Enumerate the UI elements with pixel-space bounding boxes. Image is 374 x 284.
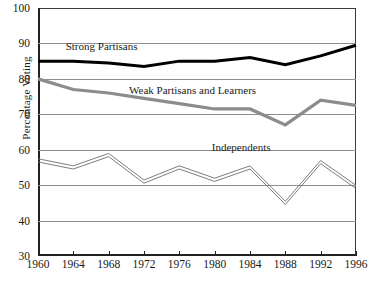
x-tick-label-1972: 1972 [133, 258, 156, 270]
x-tick-label-1968: 1968 [97, 258, 120, 270]
y-tick-label-80: 80 [19, 73, 31, 85]
chart-figure: Percentage Voting 30405060708090100 Stro… [0, 0, 374, 284]
x-tick-label-1992: 1992 [309, 258, 332, 270]
plot-area: Strong PartisansWeak Partisans and Learn… [38, 8, 356, 256]
x-tick-label-1960: 1960 [27, 258, 50, 270]
x-tick-label-1988: 1988 [274, 258, 297, 270]
annotation-independents: Independents [212, 141, 271, 153]
x-tick-label-1996: 1996 [345, 258, 368, 270]
x-tick-label-1980: 1980 [203, 258, 226, 270]
x-tick-1996 [356, 251, 357, 256]
series-line-independents [38, 157, 356, 205]
y-tick-label-40: 40 [19, 215, 31, 227]
x-tick-label-1984: 1984 [239, 258, 262, 270]
x-tick-label-1964: 1964 [62, 258, 85, 270]
x-axis-tick-labels: 1960196419681972197619801984198819921996 [0, 258, 374, 278]
annotation-weak-partisans-and-learners: Weak Partisans and Learners [129, 84, 256, 96]
x-tick-label-1976: 1976 [168, 258, 191, 270]
y-tick-label-60: 60 [19, 144, 31, 156]
y-tick-label-50: 50 [19, 179, 31, 191]
y-axis-tick-labels: 30405060708090100 [0, 8, 34, 256]
y-tick-label-70: 70 [19, 108, 31, 120]
annotation-strong-partisans: Strong Partisans [66, 40, 138, 52]
y-tick-label-100: 100 [13, 2, 30, 14]
y-tick-label-90: 90 [19, 37, 31, 49]
